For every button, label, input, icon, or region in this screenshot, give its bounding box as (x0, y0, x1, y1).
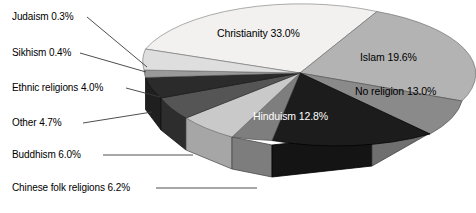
label-no-religion: No religion 13.0% (355, 85, 436, 97)
leader-line-judaism (87, 17, 147, 67)
label-judaism: Judaism 0.3% (12, 11, 74, 22)
leader-line-sikhism (80, 53, 146, 72)
label-sikhism: Sikhism 0.4% (12, 47, 71, 58)
label-hinduism: Hinduism 12.8% (253, 110, 328, 122)
label-christianity: Christianity 33.0% (217, 27, 300, 39)
pie-chart-figure: Judaism 0.3% Sikhism 0.4% Ethnic religio… (0, 0, 476, 213)
leader-line-other (83, 112, 152, 123)
label-chinese-folk-religions: Chinese folk religions 6.2% (12, 182, 130, 193)
label-ethnic-religions: Ethnic religions 4.0% (12, 82, 103, 93)
label-buddhism: Buddhism 6.0% (12, 149, 81, 160)
label-other: Other 4.7% (12, 117, 62, 128)
side-wall-buddhism (232, 137, 272, 177)
label-islam: Islam 19.6% (360, 51, 417, 63)
